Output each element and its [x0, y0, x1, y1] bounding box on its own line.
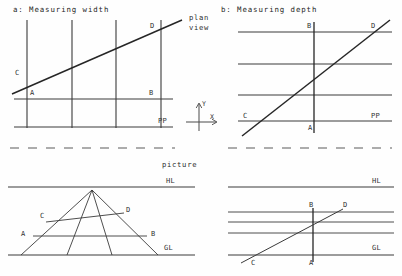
tr-point-label-B: B — [307, 22, 312, 31]
br-point-label-C: C — [251, 259, 256, 268]
br-point-label-B: B — [309, 201, 314, 210]
picture-label: picture — [162, 160, 197, 169]
tl-line-label-PP: PP — [158, 117, 167, 126]
panel-title-measuring-depth: b: Measuring depth — [221, 5, 317, 14]
tl-line-CD — [12, 20, 182, 94]
tl-point-label-B: B — [149, 89, 154, 98]
tr-line-CD — [242, 20, 390, 136]
tl-point-label-D: D — [150, 22, 155, 31]
diagram-canvas — [0, 0, 402, 276]
plan-view-label-line1: plan — [189, 13, 209, 22]
bl-ray-left-outer — [21, 190, 92, 255]
plan-view-label-line2: view — [189, 23, 209, 32]
bl-point-label-D: D — [126, 206, 131, 215]
bl-line-label-GL: GL — [164, 244, 173, 253]
br-line-label-GL: GL — [372, 244, 381, 253]
tl-point-label-C: C — [15, 69, 20, 78]
bl-point-label-B: B — [151, 230, 156, 239]
bl-ray-inner-1 — [67, 190, 92, 255]
bl-point-label-C: C — [40, 212, 45, 221]
panel-top-right-geometry — [238, 20, 392, 136]
axis-label-y: Y — [202, 100, 207, 109]
tr-point-label-D: D — [371, 22, 376, 31]
bl-line-CD — [46, 213, 124, 222]
tr-line-label-PP: PP — [371, 112, 380, 121]
panel-bottom-right-geometry — [228, 187, 394, 263]
bl-point-label-A: A — [21, 230, 26, 239]
br-line-label-HL: HL — [372, 177, 381, 186]
tr-point-label-A: A — [308, 124, 313, 133]
br-point-label-A: A — [309, 259, 314, 268]
axis-label-x: X — [210, 113, 215, 122]
br-point-label-D: D — [343, 201, 348, 210]
bl-line-label-HL: HL — [166, 177, 175, 186]
diagram-page: a: Measuring width C A B D PP b: Measuri… — [0, 0, 402, 276]
panel-top-left-geometry — [12, 20, 182, 128]
tl-point-label-A: A — [30, 89, 35, 98]
tr-point-label-C: C — [243, 112, 248, 121]
panel-title-measuring-width: a: Measuring width — [13, 5, 109, 14]
